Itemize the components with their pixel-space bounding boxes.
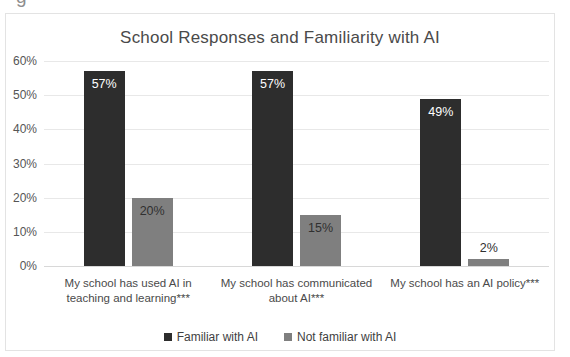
chart-title: School Responses and Familiarity with AI [6,28,554,48]
bar[interactable]: 20% [132,198,173,266]
y-axis-tick-label: 60% [13,54,37,68]
plot-area: 0%10%20%30%40%50%60% 57%20%57%15%49%2% [44,61,549,266]
bar[interactable]: 57% [252,71,293,266]
bars-layer: 57%20%57%15%49%2% [44,61,549,266]
legend-item[interactable]: Familiar with AI [164,330,258,344]
y-axis-tick-label: 40% [13,122,37,136]
gridline: 0% [44,266,549,267]
chart-container: School Responses and Familiarity with AI… [5,13,555,351]
category-label: My school has used AI in teaching and le… [50,276,206,306]
bar-value-label: 2% [468,241,509,255]
category-label: My school has an AI policy*** [387,276,543,291]
bar-value-label: 57% [252,77,293,91]
bar-value-label: 15% [300,221,341,235]
bar[interactable]: 49% [420,99,461,266]
bar[interactable]: 2% [468,259,509,266]
bar-value-label: 20% [132,204,173,218]
y-axis-tick-label: 30% [13,157,37,171]
y-axis-tick-label: 50% [13,88,37,102]
legend-label: Not familiar with AI [297,330,396,344]
category-label: My school has communicated about AI*** [219,276,375,306]
chart-legend: Familiar with AINot familiar with AI [6,330,554,344]
cropped-text-artifact: g [16,0,27,6]
legend-label: Familiar with AI [177,330,258,344]
bar-value-label: 57% [84,77,125,91]
legend-item[interactable]: Not familiar with AI [284,330,396,344]
bar[interactable]: 57% [84,71,125,266]
legend-swatch-icon [164,333,172,341]
legend-swatch-icon [284,333,292,341]
y-axis-tick-label: 0% [20,259,37,273]
y-axis-tick-label: 20% [13,191,37,205]
y-axis-tick-label: 10% [13,225,37,239]
bar-value-label: 49% [420,105,461,119]
bar[interactable]: 15% [300,215,341,266]
